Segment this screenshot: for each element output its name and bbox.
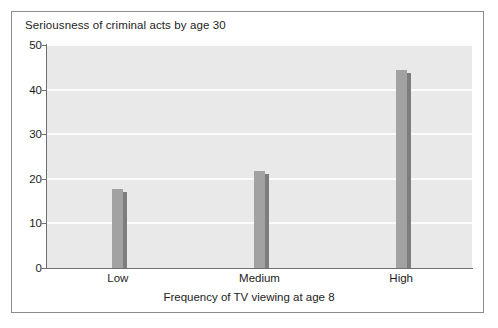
y-axis-tick-label: 10 — [2, 217, 42, 229]
y-axis-tick-mark — [42, 45, 47, 46]
x-axis-tick-label: High — [389, 272, 413, 284]
x-axis-tick-label: Medium — [239, 272, 280, 284]
y-axis-tick-mark — [42, 179, 47, 180]
y-axis-tick-label: 50 — [2, 39, 42, 51]
y-axis-tick-mark — [42, 268, 47, 269]
y-axis-tick-mark — [42, 90, 47, 91]
bar — [254, 171, 265, 268]
y-axis-tick-labels: 01020304050 — [0, 0, 42, 328]
y-axis-tick-label: 30 — [2, 128, 42, 140]
y-axis-tick-label: 20 — [2, 173, 42, 185]
x-axis-tick-label: Low — [107, 272, 128, 284]
bar-shadow-edge — [407, 73, 411, 268]
bar-shadow-edge — [265, 174, 269, 268]
chart-title: Seriousness of criminal acts by age 30 — [25, 19, 226, 31]
y-axis-tick-mark — [42, 223, 47, 224]
bar-chart-figure: Seriousness of criminal acts by age 30 0… — [0, 0, 498, 328]
bar — [396, 70, 407, 268]
x-axis-line — [46, 268, 473, 269]
y-axis-line — [46, 44, 47, 269]
y-axis-tick-mark — [42, 134, 47, 135]
y-axis-tick-label: 0 — [2, 262, 42, 274]
x-axis-title: Frequency of TV viewing at age 8 — [0, 291, 498, 303]
bar-shadow-edge — [123, 192, 127, 268]
bar — [112, 189, 123, 268]
y-axis-tick-label: 40 — [2, 84, 42, 96]
gridline — [47, 44, 472, 46]
